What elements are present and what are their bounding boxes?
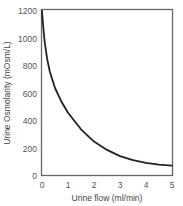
x-tick-label: 3 — [118, 180, 123, 190]
y-axis-title: Urine Osmolarity (mOsm/L) — [2, 41, 12, 145]
y-tick-label: 1000 — [18, 34, 37, 44]
y-tick-label: 0 — [32, 171, 37, 181]
y-tick-label: 200 — [23, 144, 37, 154]
x-axis-ticks: 012345 — [40, 180, 175, 190]
x-tick-label: 5 — [170, 180, 175, 190]
y-tick-label: 1200 — [18, 6, 37, 16]
x-tick-label: 4 — [144, 180, 149, 190]
y-tick-label: 800 — [23, 61, 37, 71]
y-axis-ticks: 020040060080010001200 — [18, 6, 37, 181]
y-tick-label: 400 — [23, 116, 37, 126]
x-tick-label: 1 — [66, 180, 71, 190]
x-axis-title: Urine flow (ml/min) — [72, 193, 143, 203]
osmolarity-curve — [42, 11, 172, 166]
y-tick-label: 600 — [23, 89, 37, 99]
x-tick-label: 0 — [40, 180, 45, 190]
x-tick-label: 2 — [92, 180, 97, 190]
osmolarity-chart: 020040060080010001200 012345 Urine flow … — [0, 0, 183, 206]
